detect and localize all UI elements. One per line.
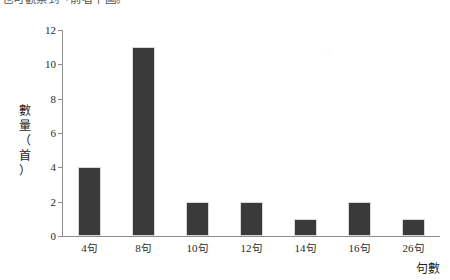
x-tick-number: 12	[241, 242, 252, 254]
x-axis-title: 句數	[416, 259, 440, 276]
x-tick-unit: 句	[414, 242, 424, 254]
x-tick-unit: 句	[252, 242, 262, 254]
bar-column[interactable]	[386, 30, 440, 236]
y-axis-title-char: （	[19, 134, 31, 149]
bar[interactable]	[348, 202, 371, 236]
x-tick-unit: 句	[360, 242, 370, 254]
x-tick-unit: 句	[306, 242, 316, 254]
x-tick-number: 10	[187, 242, 198, 254]
x-tick-label: 26句	[386, 240, 440, 255]
bar[interactable]	[294, 219, 317, 236]
y-axis-title: 數量（首）	[16, 104, 34, 179]
x-tick-unit: 句	[198, 242, 208, 254]
y-tick-mark	[58, 236, 62, 237]
x-tick-label: 12句	[224, 240, 278, 255]
bar-column[interactable]	[332, 30, 386, 236]
y-axis-title-char: ）	[19, 164, 31, 179]
x-axis-ticks: 4句8句10句12句14句16句26句	[62, 240, 440, 260]
y-tick-label: 0	[16, 230, 56, 242]
x-tick-label: 4句	[62, 240, 116, 255]
x-tick-label: 16句	[332, 240, 386, 255]
x-tick-unit: 句	[141, 242, 151, 254]
bar-column[interactable]	[116, 30, 170, 236]
bar[interactable]	[78, 167, 101, 236]
bar-series	[62, 30, 440, 236]
x-axis-line	[62, 236, 440, 237]
bar-column[interactable]	[278, 30, 332, 236]
x-tick-label: 10句	[170, 240, 224, 255]
bar[interactable]	[240, 202, 263, 236]
bar-column[interactable]	[224, 30, 278, 236]
y-axis-title-char: 量	[19, 119, 31, 134]
bar-column[interactable]	[170, 30, 224, 236]
x-tick-unit: 句	[87, 242, 97, 254]
x-tick-label: 8句	[116, 240, 170, 255]
y-axis-title-char: 數	[19, 104, 31, 119]
x-tick-number: 14	[295, 242, 306, 254]
x-tick-number: 26	[403, 242, 414, 254]
y-axis-title-char: 首	[19, 149, 31, 164]
y-tick-label: 10	[16, 58, 56, 70]
y-tick-label: 12	[16, 24, 56, 36]
x-tick-number: 16	[349, 242, 360, 254]
x-tick-label: 14句	[278, 240, 332, 255]
bar[interactable]	[402, 219, 425, 236]
bar[interactable]	[132, 47, 155, 236]
y-tick-label: 2	[16, 196, 56, 208]
bar[interactable]	[186, 202, 209, 236]
bar-column[interactable]	[62, 30, 116, 236]
bar-chart: 024681012 數量（首） 4句8句10句12句14句16句26句 句數	[0, 0, 450, 280]
